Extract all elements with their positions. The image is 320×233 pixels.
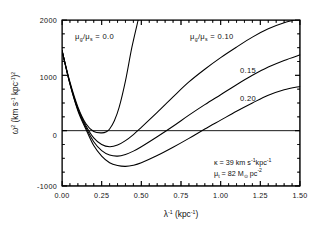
- xtick-label-075: 0.75: [173, 191, 188, 200]
- xtick-label-050: 0.50: [134, 191, 149, 200]
- annot-kappa-value: = 39 km s: [218, 158, 252, 167]
- figure-container: 2000 1000 0 -1000 0.00 0.25 0.50 0.75 1.…: [0, 0, 320, 233]
- xtick-label-100: 1.00: [213, 191, 228, 200]
- annot-mu-value: = 82 M: [220, 169, 244, 178]
- x-axis-units-close: ): [195, 209, 198, 219]
- ytick-label-2000: 2000: [40, 16, 57, 25]
- y-axis-outer-exp: 2: [10, 72, 16, 75]
- xtick-label-025: 0.25: [94, 191, 109, 200]
- annotation-kappa: κ = 39 km s-1kpc-1: [214, 157, 271, 167]
- xtick-label-000: 0.00: [54, 191, 69, 200]
- y-axis-kpc: kpc: [10, 82, 20, 97]
- annot-kappa-kpc: kpc: [256, 158, 268, 167]
- label-eq-2: = 0.10: [208, 32, 234, 41]
- annot-mu-exp: -2: [257, 167, 262, 173]
- label-eq-1: = 0.0: [93, 32, 114, 41]
- y-axis-paren-open: (km s: [10, 102, 20, 125]
- annotation-mu-t: μt = 82 M⊙ pc-2: [214, 167, 262, 178]
- dispersion-relation-chart: 2000 1000 0 -1000 0.00 0.25 0.50 0.75 1.…: [0, 0, 320, 233]
- annot-mu-pc: pc: [248, 169, 258, 178]
- x-axis-units-open: (kpc: [173, 209, 191, 219]
- curve-label-0p20: 0.20: [240, 94, 256, 103]
- annot-kappa-exp2: -1: [267, 157, 272, 163]
- ytick-label-1000: 1000: [40, 73, 57, 82]
- curve-label-0p15: 0.15: [240, 66, 256, 75]
- xtick-label-150: 1.50: [292, 191, 307, 200]
- ytick-label-0: 0: [53, 131, 57, 140]
- xtick-label-125: 1.25: [253, 191, 268, 200]
